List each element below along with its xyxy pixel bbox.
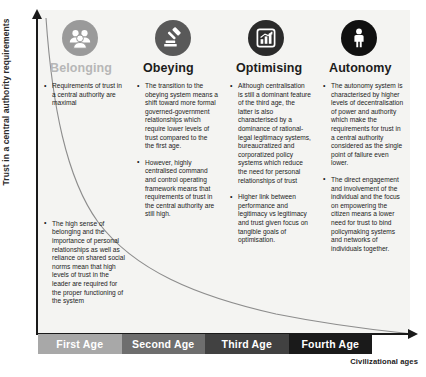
gavel-icon — [155, 20, 191, 56]
age-segment-second: Second Age — [122, 334, 206, 354]
column-obeying: Obeying The transition to the obeying sy… — [131, 12, 224, 330]
age-segment-third: Third Age — [205, 334, 289, 354]
infographic-canvas: Trust in a central authority requirement… — [0, 0, 426, 377]
age-segment-fourth: Fourth Age — [289, 334, 373, 354]
age-columns: Belonging Requirements of trust in a cen… — [38, 12, 410, 330]
column-title-optimising: Optimising — [236, 62, 311, 75]
column-title-belonging: Belonging — [50, 62, 125, 75]
list-item: Higher link between performance and legi… — [230, 193, 311, 245]
column-belonging: Belonging Requirements of trust in a cen… — [38, 12, 131, 330]
list-item: Although centralisation is still a domin… — [230, 82, 311, 185]
x-axis-caption: Civilizational ages — [350, 357, 418, 366]
person-icon — [341, 20, 377, 56]
bullet-list-obeying: The transition to the obeying system mea… — [137, 82, 218, 219]
age-segment-first: First Age — [38, 334, 122, 354]
list-item: However, highly centralised command and … — [137, 159, 218, 219]
bullet-list-optimising: Although centralisation is still a domin… — [230, 82, 311, 245]
bullet-list-belonging: Requirements of trust in a central autho… — [44, 82, 125, 306]
civilizational-age-bar: First Age Second Age Third Age Fourth Ag… — [38, 334, 372, 354]
y-axis-label: Trust in a central authority requirement… — [0, 12, 13, 192]
list-item: Requirements of trust in a central autho… — [44, 82, 125, 108]
column-optimising: Optimising Although centralisation is st… — [224, 12, 317, 330]
column-autonomy: Autonomy The autonomy system is characte… — [317, 12, 410, 330]
list-item: The high sense of belonging and the impo… — [44, 220, 125, 306]
x-axis-arrow-icon — [408, 329, 418, 339]
bullet-list-autonomy: The autonomy system is characterised by … — [323, 82, 404, 253]
list-item: The autonomy system is characterised by … — [323, 82, 404, 168]
column-title-obeying: Obeying — [143, 62, 218, 75]
bar-chart-growth-icon — [248, 20, 284, 56]
group-people-icon — [62, 20, 98, 56]
list-item: The direct engagement and involvement of… — [323, 176, 404, 253]
column-title-autonomy: Autonomy — [329, 62, 404, 75]
list-item: The transition to the obeying system mea… — [137, 82, 218, 151]
